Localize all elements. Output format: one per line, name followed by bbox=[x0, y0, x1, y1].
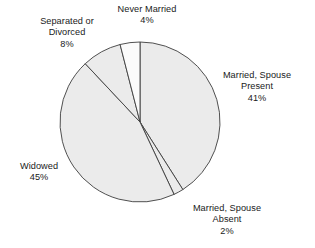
slice-label-married-spouse-absent-name-line1: Married, Spouse bbox=[172, 203, 282, 214]
slice-label-married-spouse-present-percent: 41% bbox=[205, 93, 309, 104]
slice-label-separated-or-divorced: Separated or Divorced 8% bbox=[17, 16, 117, 50]
pie-chart: Never Married 4% Separated or Divorced 8… bbox=[0, 0, 315, 248]
pie-slice-group bbox=[60, 42, 220, 202]
slice-label-married-spouse-present-name-line1: Married, Spouse bbox=[205, 70, 309, 81]
slice-label-married-spouse-present: Married, Spouse Present 41% bbox=[205, 70, 309, 104]
slice-label-married-spouse-present-name-line2: Present bbox=[205, 81, 309, 92]
slice-label-separated-or-divorced-percent: 8% bbox=[17, 39, 117, 50]
slice-label-widowed: Widowed 45% bbox=[2, 161, 76, 184]
slice-label-married-spouse-absent: Married, Spouse Absent 2% bbox=[172, 203, 282, 237]
slice-label-married-spouse-absent-percent: 2% bbox=[172, 226, 282, 237]
slice-label-separated-or-divorced-name-line1: Separated or bbox=[17, 16, 117, 27]
slice-label-married-spouse-absent-name-line2: Absent bbox=[172, 214, 282, 225]
slice-label-separated-or-divorced-name-line2: Divorced bbox=[17, 27, 117, 38]
slice-label-never-married-name: Never Married bbox=[98, 4, 196, 15]
slice-label-widowed-name: Widowed bbox=[2, 161, 76, 172]
slice-label-widowed-percent: 45% bbox=[2, 172, 76, 183]
